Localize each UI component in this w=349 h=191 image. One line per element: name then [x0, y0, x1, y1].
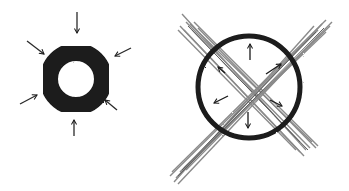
right-figure [170, 14, 332, 184]
arrow-icon [27, 41, 44, 54]
left-figure [20, 12, 131, 136]
arrow-icon [214, 96, 228, 103]
x-hatching [170, 14, 332, 184]
arrow-icon [105, 100, 117, 110]
diagram-canvas: Hand-drawn diagrams: compressed ring vs.… [0, 0, 349, 191]
diagram-svg [0, 0, 349, 191]
arrow-icon [115, 48, 131, 56]
ring-shape [49, 52, 103, 106]
inward-arrows [20, 12, 131, 136]
arrow-icon [20, 95, 37, 104]
